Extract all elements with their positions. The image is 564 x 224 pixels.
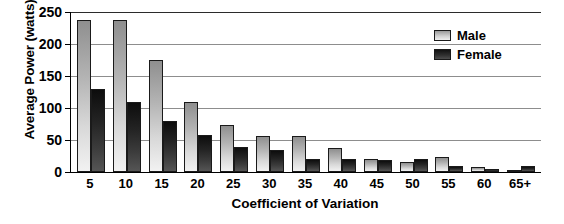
x-tick-label: 35	[287, 176, 323, 191]
bar-female-55	[449, 166, 463, 172]
bar-female-25	[234, 147, 248, 172]
x-tick-label: 65+	[502, 176, 538, 191]
chart-legend: MaleFemale	[434, 28, 502, 62]
x-axis-label: Coefficient of Variation	[70, 196, 540, 211]
y-tick-label: 200	[26, 37, 62, 51]
x-tick-label: 60	[466, 176, 502, 191]
bar-female-40	[342, 159, 356, 172]
x-tick-label: 45	[359, 176, 395, 191]
bar-male-55	[435, 157, 449, 172]
y-tick-label: 0	[26, 165, 62, 179]
bar-group	[252, 12, 288, 172]
y-tick-label: 150	[26, 69, 62, 83]
bar-female-10	[127, 102, 141, 172]
bar-male-40	[328, 148, 342, 172]
bar-group	[503, 12, 539, 172]
bar-group	[324, 12, 360, 172]
y-tick-label: 100	[26, 101, 62, 115]
x-tick-label: 40	[323, 176, 359, 191]
bar-group	[109, 12, 145, 172]
bar-female-65plus	[521, 166, 535, 172]
chart-screenshot: Average Power (watts) 050100150200250 51…	[0, 0, 564, 224]
bar-female-20	[198, 135, 212, 172]
x-tick-label: 5	[72, 176, 108, 191]
y-tick-mark	[65, 172, 71, 173]
bar-group	[288, 12, 324, 172]
bar-male-60	[471, 167, 485, 172]
bar-female-15	[163, 121, 177, 172]
bar-male-45	[364, 159, 378, 172]
y-tick-label: 50	[26, 133, 62, 147]
legend-swatch-icon	[434, 49, 451, 60]
bar-female-5	[91, 89, 105, 172]
bar-female-60	[485, 169, 499, 172]
bar-female-45	[378, 160, 392, 172]
x-tick-label: 25	[215, 176, 251, 191]
legend-label: Female	[457, 47, 502, 62]
legend-label: Male	[457, 28, 486, 43]
bar-male-50	[400, 162, 414, 172]
bar-group	[73, 12, 109, 172]
bar-female-30	[270, 150, 284, 172]
x-tick-label: 30	[251, 176, 287, 191]
bar-male-25	[220, 125, 234, 172]
bar-male-65plus	[507, 170, 521, 172]
bar-female-50	[414, 159, 428, 172]
legend-item-female: Female	[434, 47, 502, 62]
x-tick-label: 55	[430, 176, 466, 191]
bar-male-35	[292, 136, 306, 172]
x-tick-label: 15	[144, 176, 180, 191]
bar-group	[181, 12, 217, 172]
x-axis-tick-labels: 5101520253035404550556065+	[70, 176, 540, 191]
legend-item-male: Male	[434, 28, 502, 43]
x-tick-label: 20	[180, 176, 216, 191]
x-tick-label: 50	[395, 176, 431, 191]
bar-male-10	[113, 20, 127, 172]
legend-swatch-icon	[434, 30, 451, 41]
bar-group	[145, 12, 181, 172]
bar-female-35	[306, 159, 320, 172]
y-tick-label: 250	[26, 5, 62, 19]
bar-male-5	[77, 20, 91, 172]
bar-group	[396, 12, 432, 172]
bar-male-20	[184, 102, 198, 172]
bar-male-30	[256, 136, 270, 172]
x-tick-label: 10	[108, 176, 144, 191]
y-axis-tick-labels: 050100150200250	[26, 0, 62, 224]
bar-group	[360, 12, 396, 172]
bar-male-15	[149, 60, 163, 172]
bar-group	[216, 12, 252, 172]
